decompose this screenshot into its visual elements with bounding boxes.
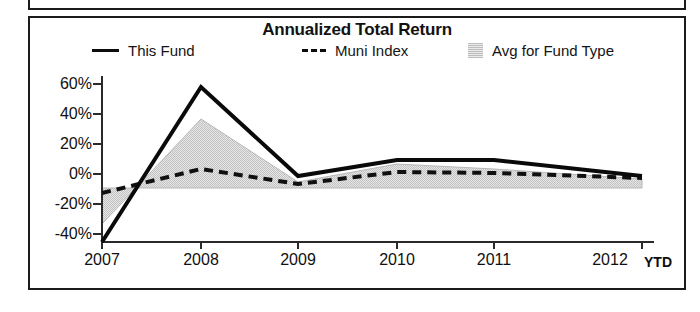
clipped-panel-above [28, 0, 686, 10]
screenshot-root: Annualized Total Return This Fund Muni I… [0, 0, 700, 312]
plot-area: 60% 40% 20% 0% -20% -40% 2007 2008 2009 … [30, 18, 684, 288]
chart-panel: Annualized Total Return This Fund Muni I… [28, 16, 686, 290]
chart-svg [30, 18, 688, 292]
